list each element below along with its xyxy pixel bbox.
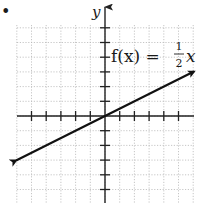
list-bullet: • (1, 2, 10, 21)
function-variable: x (186, 46, 196, 66)
fraction-numerator: 1 (176, 40, 183, 53)
y-axis-label: y (91, 3, 101, 21)
function-label: f(x) = (111, 46, 160, 66)
fraction-denominator: 2 (176, 57, 183, 70)
function-graph: • y f(x) = 1 2 x (0, 0, 202, 216)
